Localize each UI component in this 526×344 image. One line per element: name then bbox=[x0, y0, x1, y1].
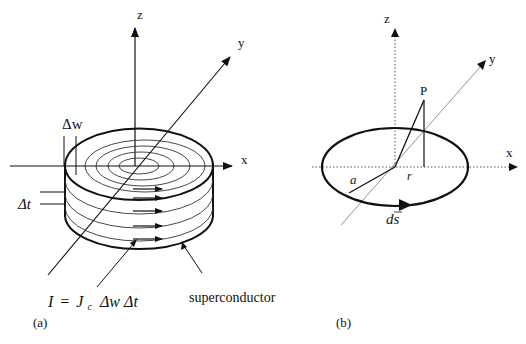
disk-bottom-edge bbox=[65, 215, 213, 249]
x-axis-label-b: x bbox=[506, 145, 513, 160]
superconductor-pointer-line bbox=[184, 246, 202, 273]
disk-top-back-edge bbox=[65, 128, 213, 166]
ds-arrowhead bbox=[399, 199, 412, 211]
y-axis-label-a: y bbox=[238, 35, 245, 50]
current-formula: I = J c Δw Δt bbox=[47, 293, 138, 313]
y-axis-label-b: y bbox=[489, 51, 496, 66]
delta-w-label: Δw bbox=[62, 116, 83, 132]
radius-a-label: a bbox=[350, 172, 357, 187]
panel-a-caption: (a) bbox=[33, 315, 47, 330]
z-axis-label-b: z bbox=[384, 11, 390, 26]
z-axis-label-a: z bbox=[137, 7, 143, 22]
delta-t-label: Δt bbox=[17, 196, 32, 212]
x-axis-label-a: x bbox=[241, 152, 248, 167]
ds-label: ds bbox=[386, 211, 400, 227]
panel-b: z x y a P r ds (b) bbox=[312, 11, 518, 330]
superconductor-label: superconductor bbox=[189, 290, 276, 305]
x-axis-b-arrowhead bbox=[509, 163, 518, 171]
diagram-canvas: z x bbox=[0, 0, 526, 344]
panel-b-caption: (b) bbox=[336, 315, 351, 330]
panel-a: z x bbox=[10, 7, 276, 330]
current-pointer-line bbox=[97, 243, 134, 287]
z-axis-b-arrowhead bbox=[391, 28, 399, 37]
radius-r-label: r bbox=[407, 169, 412, 183]
line-to-p bbox=[395, 100, 424, 167]
point-p-label: P bbox=[420, 83, 427, 98]
